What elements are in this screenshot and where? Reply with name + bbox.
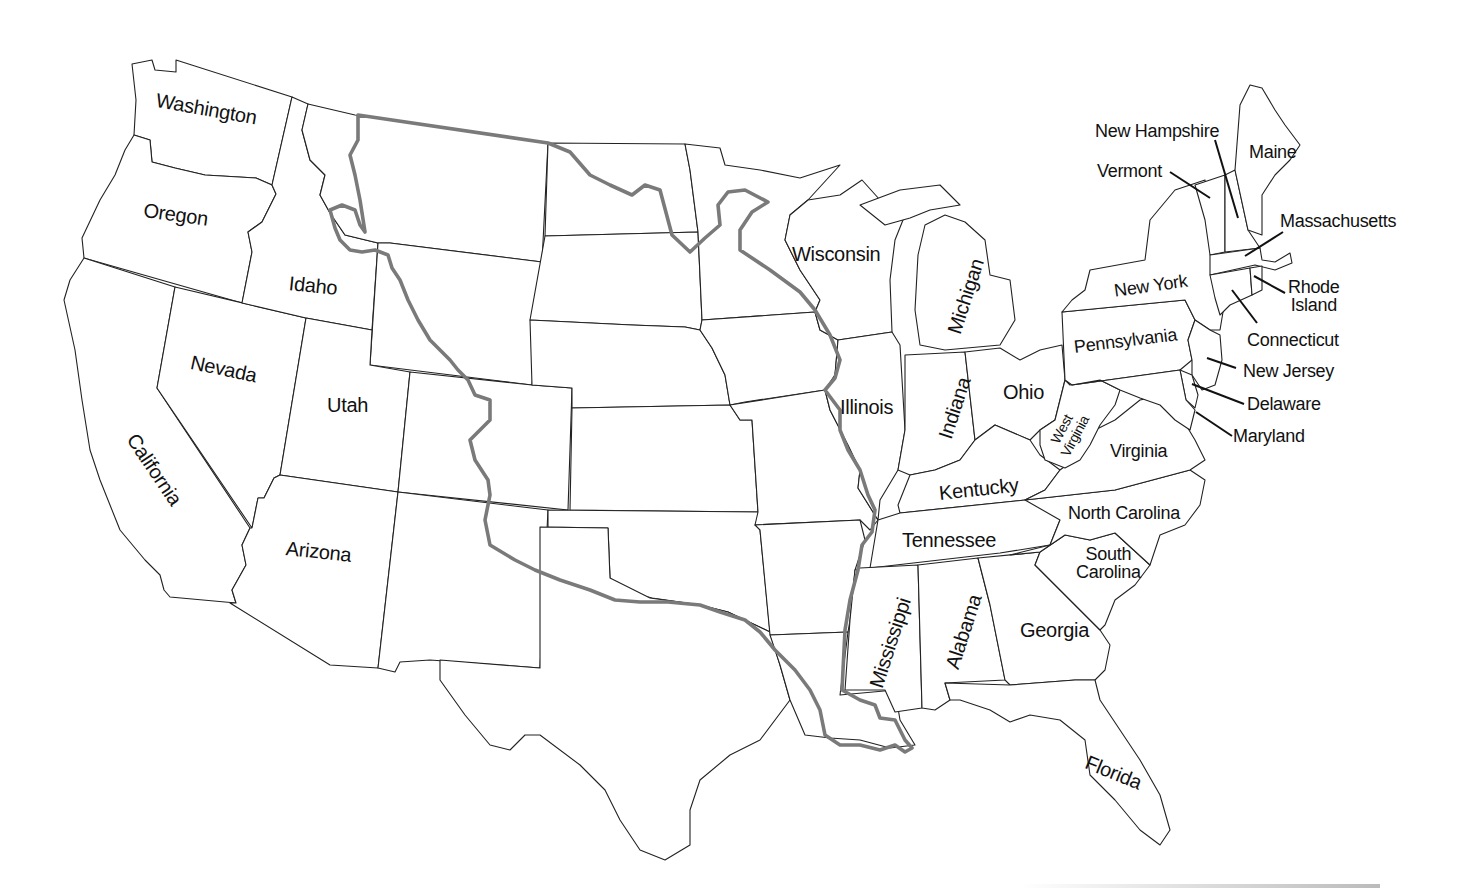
label-new-hampshire: New Hampshire <box>1095 122 1219 140</box>
label-ohio: Ohio <box>1003 382 1044 402</box>
label-north-carolina: North Carolina <box>1068 504 1180 522</box>
leader-delaware <box>1192 384 1244 404</box>
label-connecticut: Connecticut <box>1247 331 1339 349</box>
label-massachusetts: Massachusetts <box>1280 212 1396 230</box>
label-idaho: Idaho <box>288 273 338 298</box>
label-south-carolina: South Carolina <box>1076 545 1141 581</box>
state-florida <box>945 680 1170 845</box>
label-rhode-island-line1: Rhode <box>1288 277 1340 297</box>
label-maryland: Maryland <box>1233 427 1305 445</box>
label-virginia: Virginia <box>1110 442 1167 460</box>
state-wyoming <box>370 243 542 385</box>
label-tennessee: Tennessee <box>902 530 996 550</box>
label-maine: Maine <box>1249 143 1297 161</box>
us-map <box>0 0 1463 892</box>
leader-maryland <box>1196 412 1232 436</box>
label-south-carolina-line2: Carolina <box>1076 562 1141 582</box>
state-colorado <box>398 372 572 510</box>
label-rhode-island-line2: Island <box>1291 295 1337 315</box>
label-south-carolina-line1: South <box>1086 544 1132 564</box>
label-new-jersey: New Jersey <box>1243 362 1334 380</box>
label-rhode-island: Rhode Island <box>1288 278 1340 314</box>
state-south-dakota <box>530 232 702 330</box>
label-illinois: Illinois <box>840 397 893 417</box>
label-georgia: Georgia <box>1020 620 1089 640</box>
label-delaware: Delaware <box>1247 395 1321 413</box>
state-kansas <box>570 405 758 512</box>
scan-artifact <box>1020 884 1380 888</box>
label-wisconsin: Wisconsin <box>792 244 880 264</box>
label-vermont: Vermont <box>1097 162 1162 180</box>
state-new-mexico <box>378 492 548 672</box>
label-utah: Utah <box>327 395 368 415</box>
